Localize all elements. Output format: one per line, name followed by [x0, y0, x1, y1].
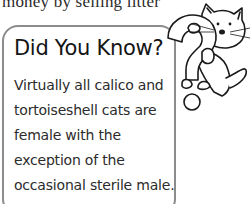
preceding-text-fragment: money by selling litter — [2, 0, 160, 12]
cat-with-question-mark-icon — [158, 0, 252, 120]
did-you-know-title: Did You Know? — [14, 36, 163, 60]
